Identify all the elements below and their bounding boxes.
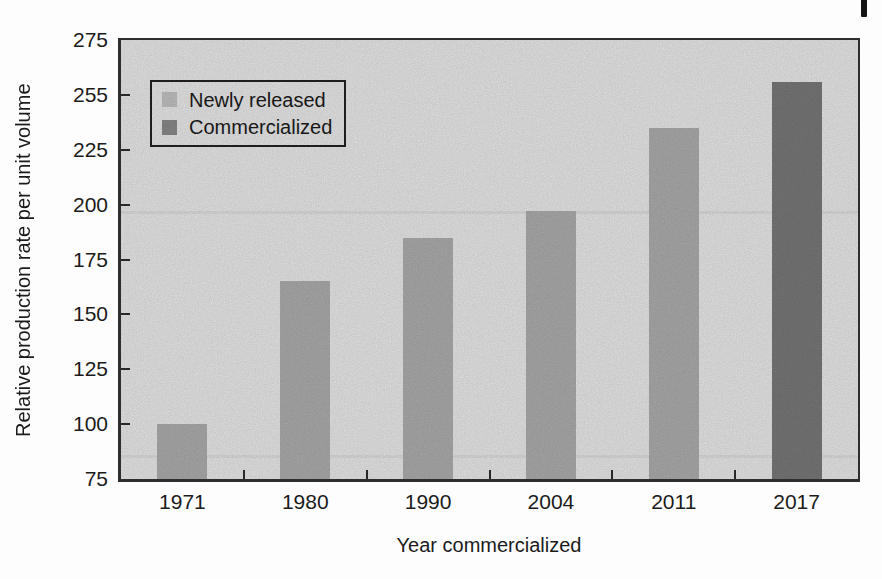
x-tick-label-2011: 2011 — [651, 490, 696, 514]
x-tick-label-1980: 1980 — [282, 490, 329, 514]
y-tick-label-275: 275 — [73, 28, 108, 52]
y-tick-label-125: 125 — [73, 357, 108, 381]
y-tick-label-150: 150 — [73, 302, 108, 326]
y-tick-mark — [121, 149, 130, 151]
legend-item-commercialized: Commercialized — [162, 114, 334, 142]
legend-label-newly-released: Newly released — [189, 90, 326, 110]
y-tick-mark — [121, 313, 130, 315]
scan-streak — [121, 455, 858, 458]
y-tick-mark — [121, 259, 130, 261]
y-tick-label-200: 200 — [73, 193, 108, 217]
x-tick-label-2004: 2004 — [528, 490, 575, 514]
y-tick-label-75: 75 — [85, 467, 108, 491]
y-tick-label-175: 175 — [73, 248, 108, 272]
legend-swatch-newly-released — [162, 92, 177, 107]
x-tick-mark — [243, 470, 245, 479]
y-tick-label-100: 100 — [73, 412, 108, 436]
bar-1971 — [157, 424, 207, 479]
x-tick-mark — [489, 470, 491, 479]
bar-2011 — [649, 128, 699, 479]
bar-2017 — [772, 82, 822, 479]
legend: Newly released Commercialized — [150, 80, 346, 147]
x-tick-mark — [611, 470, 613, 479]
y-tick-mark — [121, 94, 130, 96]
legend-label-commercialized: Commercialized — [189, 117, 332, 137]
x-tick-label-1990: 1990 — [405, 490, 452, 514]
legend-item-newly-released: Newly released — [162, 86, 334, 114]
y-tick-mark — [121, 204, 130, 206]
bar-1980 — [280, 281, 330, 479]
x-tick-label-1971: 1971 — [159, 490, 206, 514]
y-tick-label-255: 255 — [73, 83, 108, 107]
x-tick-label-2017: 2017 — [773, 490, 820, 514]
legend-swatch-commercialized — [162, 120, 177, 135]
y-tick-mark — [121, 423, 130, 425]
plot-area: Newly released Commercialized — [118, 38, 860, 482]
bar-1990 — [403, 238, 453, 479]
page-number-fragment — [861, 0, 867, 17]
bar-2004 — [526, 211, 576, 479]
x-tick-mark — [734, 470, 736, 479]
x-axis-title: Year commercialized — [118, 534, 860, 557]
x-tick-mark — [366, 470, 368, 479]
y-tick-mark — [121, 368, 130, 370]
chart-figure: Relative production rate per unit volume… — [0, 0, 882, 579]
y-axis-tick-labels: 75100125150175200225255275 — [0, 40, 108, 479]
y-tick-label-225: 225 — [73, 138, 108, 162]
scan-streak — [121, 211, 858, 214]
x-axis-tick-labels: 197119801990200420112017 — [121, 490, 858, 518]
